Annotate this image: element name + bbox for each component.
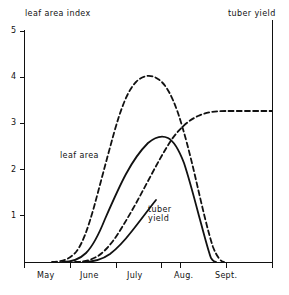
series-leaf-area-dashed <box>52 76 224 262</box>
annotation-yield: yield <box>148 214 169 223</box>
annotation-leaf-area: leaf area <box>60 151 99 160</box>
left-axis-title: leaf area index <box>25 9 91 18</box>
y-axis-ticks <box>20 31 25 216</box>
chart-canvas <box>0 0 289 295</box>
x-tick-label-june: June <box>80 271 99 280</box>
x-tick-label-may: May <box>37 271 54 280</box>
right-axis-title: tuber yield <box>228 9 276 18</box>
y-tick-label-3: 3 <box>11 118 16 127</box>
series-tuber-yield-dashed <box>75 111 272 262</box>
axis-lines <box>24 20 273 263</box>
y-tick-label-2: 2 <box>11 165 16 174</box>
x-tick-label-sept: Sept. <box>215 271 237 280</box>
y-tick-label-1: 1 <box>11 211 16 220</box>
x-tick-label-aug: Aug. <box>174 271 193 280</box>
y-tick-label-4: 4 <box>11 72 16 81</box>
chart-figure: leaf area index tuber yield 5 4 3 2 1 Ma… <box>0 0 289 295</box>
x-tick-label-july: July <box>127 271 143 280</box>
y-tick-label-5: 5 <box>11 26 16 35</box>
annotation-tuber: tuber <box>148 205 172 214</box>
